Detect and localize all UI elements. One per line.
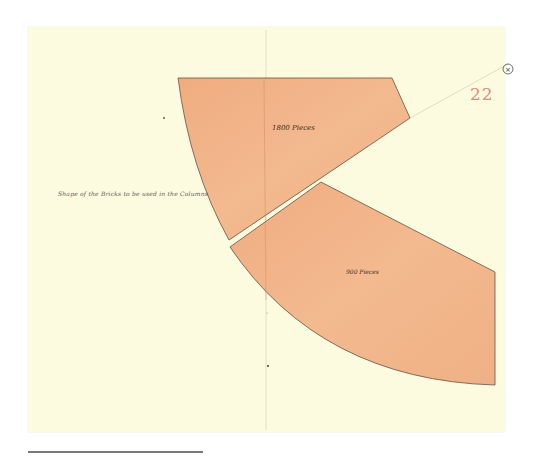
ink-dot [266, 312, 267, 313]
document-viewer: × Shape of the Bricks to be used in the … [0, 0, 533, 458]
center-marker-icon: × [503, 64, 513, 74]
svg-text:×: × [505, 66, 511, 74]
lower-wedge-label: 900 Pieces [346, 268, 379, 275]
scale-bar [28, 451, 203, 453]
upper-wedge-label: 1800 Pieces [272, 124, 315, 132]
ink-dot [267, 365, 269, 367]
ink-dot [163, 117, 165, 119]
drawing-caption: Shape of the Bricks to be used in the Co… [58, 190, 208, 197]
brick-drawing: × [0, 0, 533, 458]
sheet-number: 22 [470, 84, 494, 104]
